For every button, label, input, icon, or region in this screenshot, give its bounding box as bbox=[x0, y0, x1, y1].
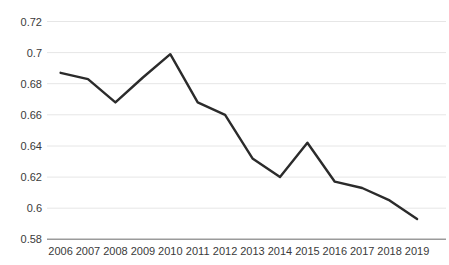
x-tick-label: 2018 bbox=[377, 245, 401, 257]
x-tick-label: 2006 bbox=[48, 245, 72, 257]
chart-container: 0.580.60.620.640.660.680.70.722006200720… bbox=[0, 0, 449, 265]
x-tick-label: 2010 bbox=[158, 245, 182, 257]
y-tick-label: 0.7 bbox=[27, 47, 42, 59]
y-tick-label: 0.66 bbox=[21, 109, 42, 121]
x-tick-label: 2012 bbox=[213, 245, 237, 257]
line-chart: 0.580.60.620.640.660.680.70.722006200720… bbox=[0, 0, 449, 265]
x-tick-label: 2015 bbox=[295, 245, 319, 257]
x-tick-label: 2013 bbox=[240, 245, 264, 257]
x-tick-label: 2016 bbox=[323, 245, 347, 257]
y-tick-label: 0.58 bbox=[21, 233, 42, 245]
y-tick-label: 0.64 bbox=[21, 140, 42, 152]
x-tick-label: 2017 bbox=[350, 245, 374, 257]
x-tick-label: 2009 bbox=[131, 245, 155, 257]
y-tick-label: 0.6 bbox=[27, 202, 42, 214]
x-tick-label: 2014 bbox=[268, 245, 292, 257]
x-tick-label: 2007 bbox=[76, 245, 100, 257]
x-tick-label: 2019 bbox=[405, 245, 429, 257]
data-line bbox=[61, 54, 418, 219]
x-tick-label: 2011 bbox=[186, 245, 210, 257]
x-tick-label: 2008 bbox=[103, 245, 127, 257]
y-tick-label: 0.62 bbox=[21, 171, 42, 183]
y-tick-label: 0.68 bbox=[21, 78, 42, 90]
y-tick-label: 0.72 bbox=[21, 16, 42, 28]
